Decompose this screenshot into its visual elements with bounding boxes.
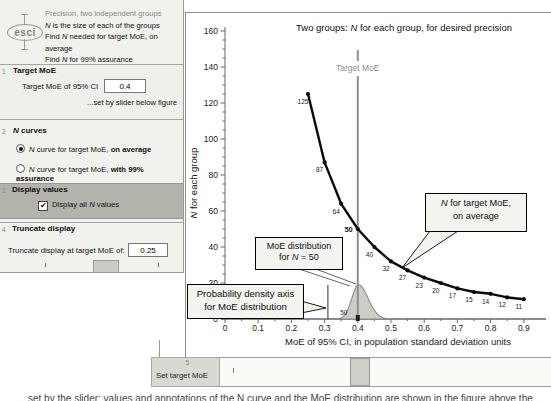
x-tick-label: 0.7 (451, 323, 463, 333)
x-tick-label: 0.6 (418, 323, 430, 333)
y-axis-label: N for each group (188, 148, 199, 219)
checkbox-display-all-n[interactable]: ✔Display all N values (38, 200, 119, 211)
annotation-probability-axis: Probability density axis for MoE distrib… (187, 284, 304, 319)
truncate-label: Truncate display at target MoE of: (8, 246, 125, 255)
esci-logo-text: esci (7, 24, 43, 41)
n-label: 87 (316, 166, 324, 173)
target-moe-label: Target MoE of 95% CI (22, 82, 98, 91)
section-title: N curves (13, 126, 47, 135)
y-tick-label: 60 (209, 206, 219, 216)
chart-panel: Two groups: N for each group, for desire… (185, 12, 551, 359)
y-tick-label: 120 (204, 98, 218, 108)
y-tick-label: 160 (204, 26, 218, 36)
n-label: 11 (515, 303, 522, 310)
target-moe-label: Target MoE (336, 63, 380, 73)
checkbox-icon[interactable]: ✔ (38, 201, 48, 211)
x-tick-label: 0.5 (385, 323, 397, 333)
distribution-n-label: 50 (340, 309, 348, 316)
target-moe-hint: ...set by slider below figure (87, 98, 177, 107)
n-label: 40 (366, 251, 374, 258)
x-tick-label: 0.3 (319, 323, 331, 333)
ci-bar-top (24, 14, 25, 24)
slider-tick (45, 263, 46, 267)
moe-distribution-curve (327, 285, 400, 319)
n-label: 12 (499, 301, 507, 308)
section-title: Display values (12, 185, 68, 194)
slider-tick (233, 368, 234, 373)
section-target-moe: 1 Target MoE Target MoE of 95% CI ...set… (0, 64, 183, 120)
y-tick-label: 140 (204, 62, 218, 72)
ci-cap-bottom (21, 49, 28, 50)
axes (221, 27, 547, 323)
annotation-n-target-moe: N for target MoE, on average (425, 193, 527, 232)
annotation-moe-distribution: MoE distribution for N = 50 (255, 237, 343, 270)
esci-precision-window: esci Precision, two independent groups N… (0, 0, 551, 401)
n-label: 32 (382, 265, 390, 272)
section-number: 1 (2, 68, 6, 75)
control-sidebar: esci Precision, two independent groups N… (0, 0, 184, 273)
section-number: 2 (2, 128, 6, 135)
set-target-moe-label: 5 Set target MoE (151, 357, 220, 387)
y-tick-label: 80 (209, 170, 219, 180)
n-label: 125 (298, 98, 309, 105)
slider-tick (158, 263, 159, 267)
x-axis-label: MoE of 95% CI, in population standard de… (285, 336, 511, 347)
section-n-curves: 2 N curves N curve for target MoE, on av… (0, 125, 183, 181)
target-moe-axis-marker (356, 315, 360, 321)
chart-title: Two groups: N for each group, for desire… (296, 22, 512, 33)
x-tick-label: 0.2 (285, 323, 297, 333)
section-number: 4 (2, 226, 6, 233)
section-number: 5 (186, 359, 190, 366)
section-number: 3 (2, 187, 6, 194)
header-line-2: Find N needed for target MoE, on average (45, 31, 181, 54)
n-label: 27 (399, 274, 407, 281)
section-truncate-display: 4 Truncate display Truncate display at t… (0, 222, 183, 273)
ci-cap-top (21, 14, 28, 15)
section-title: Target MoE (13, 66, 56, 75)
x-tick-label: 0.4 (352, 323, 364, 333)
n-label: 64 (333, 208, 341, 215)
x-tick-label: 0.8 (485, 323, 497, 333)
radio-button-icon[interactable] (16, 164, 25, 173)
esci-logo: esci (7, 12, 43, 52)
truncate-input[interactable] (128, 243, 168, 257)
cropped-caption: set by the slider; values and annotation… (28, 393, 534, 401)
y-tick-label: 100 (204, 134, 218, 144)
header-line-1: N is the size of each of the groups (45, 20, 181, 32)
panel-edge-line (159, 340, 160, 357)
ci-bar-bottom (24, 39, 25, 49)
n-label: 15 (465, 296, 473, 303)
n-label: 20 (432, 287, 440, 294)
x-tick-label: 0 (223, 323, 228, 333)
app-tagline: Precision, two independent groups (45, 8, 181, 20)
x-tick-label: 0.1 (252, 323, 264, 333)
target-moe-input[interactable] (104, 79, 146, 93)
truncate-slider-thumb[interactable] (93, 260, 119, 273)
radio-n-curve-average[interactable]: N curve for target MoE, on average (16, 144, 151, 154)
target-moe-slider-thumb[interactable] (350, 358, 370, 386)
y-tick-label: 40 (209, 242, 219, 252)
n-label: 23 (416, 282, 424, 289)
x-tick-label: 0.9 (518, 323, 530, 333)
n-label-highlight: 50 (344, 225, 352, 234)
radio-button-icon[interactable] (16, 144, 25, 153)
n-label: 14 (482, 298, 490, 305)
n-label: 17 (449, 292, 457, 299)
section-display-values: 3 Display values ✔Display all N values (0, 183, 183, 219)
radio-n-curve-assurance[interactable]: N curve for target MoE, with 99% assuran… (16, 164, 183, 183)
header-text: Precision, two independent groups N is t… (45, 8, 181, 66)
section-title: Truncate display (12, 224, 75, 233)
